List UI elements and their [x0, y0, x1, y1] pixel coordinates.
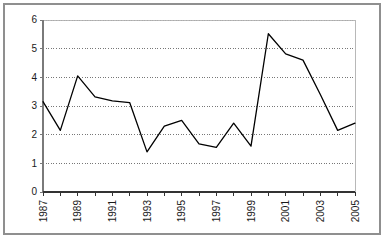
x-tick-label: 1991: [107, 200, 118, 223]
x-axis-ticks: 1987198919911993199519971999200120032005: [38, 192, 361, 222]
y-tick-label: 6: [31, 14, 37, 25]
chart-figure: 0123456198719891991199319951997199920012…: [0, 0, 386, 241]
x-tick-label: 1989: [72, 200, 83, 223]
x-tick-label: 1987: [38, 200, 49, 223]
y-tick-label: 5: [31, 43, 37, 54]
x-tick-label: 1999: [246, 200, 257, 223]
x-tick-label: 1997: [211, 200, 222, 223]
x-tick-label: 1993: [142, 200, 153, 223]
y-tick-label: 4: [31, 72, 37, 83]
y-tick-label: 3: [31, 100, 37, 111]
x-tick-label: 2003: [315, 200, 326, 223]
x-tick-label: 1995: [176, 200, 187, 223]
y-axis-ticks: 0123456: [31, 14, 43, 197]
x-tick-label: 2005: [350, 200, 361, 223]
line-chart: 0123456198719891991199319951997199920012…: [0, 0, 386, 241]
y-tick-label: 0: [31, 186, 37, 197]
y-tick-label: 1: [31, 158, 37, 169]
x-tick-label: 2001: [280, 200, 291, 223]
y-tick-label: 2: [31, 129, 37, 140]
